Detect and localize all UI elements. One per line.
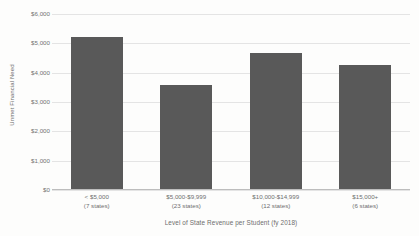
y-axis-tick-label: $6,000 xyxy=(14,10,50,18)
x-axis-tick-label: $15,000+(6 states) xyxy=(321,193,411,210)
y-axis-tick-label: $5,000 xyxy=(14,39,50,47)
bar-chart: Unmet Financial Need $6,000$5,000$4,000$… xyxy=(0,0,419,236)
y-axis-tick-label: $4,000 xyxy=(14,69,50,77)
x-axis-tick-label: $10,000-$14,999(12 states) xyxy=(231,193,321,210)
x-axis-category-name: $5,000-$9,999 xyxy=(166,193,206,200)
bar[interactable] xyxy=(160,85,212,190)
bar-slot xyxy=(321,14,411,190)
bar[interactable] xyxy=(339,65,391,190)
y-axis-tick-labels: $6,000$5,000$4,000$3,000$2,000$1,000$0 xyxy=(14,8,50,196)
y-axis-tick-label: $0 xyxy=(14,186,50,194)
x-axis-category-name: $10,000-$14,999 xyxy=(252,193,299,200)
x-axis-line xyxy=(52,189,410,190)
x-axis-category-count: (23 states) xyxy=(142,202,232,211)
x-axis-category-name: < $5,000 xyxy=(85,193,109,200)
bar-slot xyxy=(142,14,232,190)
y-axis-tick-label: $1,000 xyxy=(14,157,50,165)
bar-series xyxy=(52,14,410,190)
x-axis-category-count: (6 states) xyxy=(321,202,411,211)
bar[interactable] xyxy=(71,37,123,190)
x-axis-tick-labels: < $5,000(7 states)$5,000-$9,999(23 state… xyxy=(52,193,410,210)
y-axis-tick-label: $3,000 xyxy=(14,98,50,106)
plot-area xyxy=(52,14,410,190)
x-axis-category-name: $15,000+ xyxy=(352,193,378,200)
bar-slot xyxy=(231,14,321,190)
x-axis-tick-label: < $5,000(7 states) xyxy=(52,193,142,210)
x-axis-title: Level of State Revenue per Student (fy 2… xyxy=(52,219,410,226)
x-axis-category-count: (12 states) xyxy=(231,202,321,211)
bar-slot xyxy=(52,14,142,190)
y-axis-tick-label: $2,000 xyxy=(14,127,50,135)
x-axis-category-count: (7 states) xyxy=(52,202,142,211)
gridline xyxy=(52,190,410,191)
x-axis-tick-label: $5,000-$9,999(23 states) xyxy=(142,193,232,210)
bar[interactable] xyxy=(250,53,302,190)
